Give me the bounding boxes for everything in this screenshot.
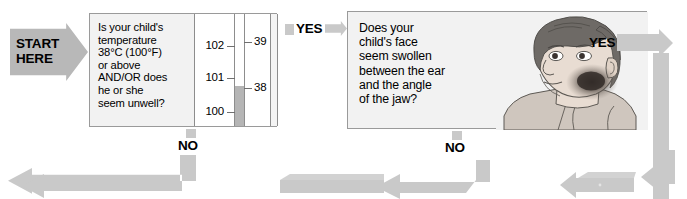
thermometer-tickmark-39 <box>244 42 252 43</box>
thermometer-divider-right <box>270 14 271 126</box>
thermometer-tick-100: 100 <box>196 106 224 118</box>
thermometer-mercury-column <box>235 86 244 126</box>
yes-connector-stub-1 <box>285 24 294 35</box>
start-here-label: START HERE <box>16 36 76 66</box>
thermometer-side-panel <box>270 14 277 126</box>
yes-arrow-1 <box>325 21 347 36</box>
question-box-face: Does your child's face seem swollen betw… <box>347 11 647 129</box>
thermometer-divider-left <box>194 14 195 126</box>
no-label-1: NO <box>178 139 198 153</box>
no-arrow-1 <box>0 155 200 199</box>
face-question-text: Does your child's face seem swollen betw… <box>359 21 491 106</box>
yes-label-1: YES <box>296 22 322 36</box>
thermometer-tick-39: 39 <box>254 36 274 48</box>
thermometer-tickmark-102 <box>227 46 235 47</box>
no-connector-stub-2 <box>452 131 462 140</box>
flowchart-canvas: START HERE Is your child's temperature 3… <box>0 0 687 199</box>
thermometer-graphic: 102 101 100 39 38 <box>194 14 278 126</box>
thermometer-tick-102: 102 <box>196 40 224 52</box>
thermometer-tickmark-38 <box>244 88 252 89</box>
thermometer-tick-101: 101 <box>196 72 224 84</box>
temperature-question-text: Is your child's temperature 38°C (100°F)… <box>98 21 190 109</box>
thermometer-tick-38: 38 <box>254 82 274 94</box>
no-arrow-2 <box>280 160 490 199</box>
thermometer-outer-edge <box>277 14 278 126</box>
thermometer-tube-right-edge <box>244 14 245 126</box>
thermometer-tickmark-100 <box>227 112 235 113</box>
bottom-elbow-right <box>639 150 687 199</box>
start-here-marker: START HERE <box>10 23 88 81</box>
no-label-2: NO <box>445 141 465 155</box>
no-connector-stub-1 <box>186 129 196 138</box>
yes-label-2: YES <box>589 36 615 50</box>
thermometer-tickmark-101 <box>227 78 235 79</box>
question-box-temperature: Is your child's temperature 38°C (100°F)… <box>89 13 277 127</box>
bottom-connector-arrow-right <box>516 168 646 199</box>
